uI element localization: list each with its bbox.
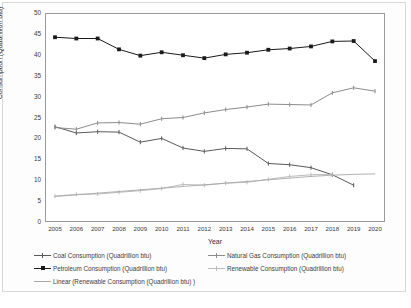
data-point-petroleum-consumption — [330, 40, 334, 44]
data-point-petroleum-consumption — [245, 51, 249, 55]
legend-item-renewable-consumption[interactable]: Renewable Consumption (Quadrillion btu) — [208, 263, 344, 274]
data-point-petroleum-consumption — [202, 56, 206, 60]
x-axis-tick-2018: 2018 — [326, 225, 340, 232]
x-axis-tick-2009: 2009 — [134, 225, 148, 232]
legend-swatch-coal-consumption-icon — [34, 251, 51, 260]
series-line-linear — [55, 174, 375, 197]
x-axis-tick-2017: 2017 — [304, 225, 318, 232]
data-point-petroleum-consumption — [74, 37, 78, 41]
legend-swatch-petroleum-consumption-icon — [34, 264, 51, 273]
legend-item-linear[interactable]: Linear (Renewable Consumption (Quadrilli… — [34, 276, 195, 287]
y-axis-title: Consumption (Quadrillion btu) — [0, 0, 9, 123]
y-axis-tick-10: 10 — [34, 177, 41, 183]
data-point-petroleum-consumption — [224, 52, 228, 56]
legend-label-linear: Linear (Renewable Consumption (Quadrilli… — [53, 277, 195, 286]
x-axis-tick-2012: 2012 — [198, 225, 212, 232]
y-axis-tick-30: 30 — [34, 93, 41, 99]
x-axis-tick-labels: 2005200620072008200920102011201220132014… — [45, 225, 385, 235]
legend-swatch-renewable-consumption-icon — [208, 264, 225, 273]
chart-root: Consumption (Quadrillion btu) 5045403530… — [0, 0, 411, 308]
y-axis-tick-25: 25 — [34, 114, 41, 120]
x-axis-tick-2006: 2006 — [70, 225, 84, 232]
data-point-petroleum-consumption — [288, 47, 292, 51]
y-axis-tick-45: 45 — [34, 31, 41, 37]
legend-item-petroleum-consumption[interactable]: Petroleum Consumption (Quadrillion btu) — [34, 263, 167, 274]
x-axis-tick-2010: 2010 — [155, 225, 169, 232]
series-line-petroleum-consumption — [55, 37, 375, 61]
data-point-petroleum-consumption — [53, 35, 57, 39]
legend-item-natural-gas-consumption[interactable]: Natural Gas Consumption (Quadrillion btu… — [208, 250, 346, 261]
x-axis-tick-2008: 2008 — [112, 225, 126, 232]
x-axis-tick-2013: 2013 — [219, 225, 233, 232]
legend-label-renewable-consumption: Renewable Consumption (Quadrillion btu) — [227, 264, 344, 273]
x-axis-tick-2011: 2011 — [176, 225, 189, 232]
chart-legend: Coal Consumption (Quadrillion btu)Natura… — [30, 250, 380, 290]
x-axis-tick-2007: 2007 — [91, 225, 105, 232]
x-axis-tick-2019: 2019 — [347, 225, 361, 232]
data-point-petroleum-consumption — [352, 39, 356, 43]
y-axis-tick-15: 15 — [34, 156, 41, 162]
y-axis-tick-labels: 50454035302520151050 — [18, 13, 43, 222]
data-point-petroleum-consumption — [138, 54, 142, 58]
legend-swatch-natural-gas-consumption-icon — [208, 251, 225, 260]
y-axis-tick-0: 0 — [37, 219, 41, 225]
x-axis-tick-2015: 2015 — [262, 225, 276, 232]
plot-area — [45, 13, 385, 222]
legend-label-coal-consumption: Coal Consumption (Quadrillion btu) — [53, 251, 151, 260]
y-axis-tick-20: 20 — [34, 135, 41, 141]
x-axis-tick-2014: 2014 — [240, 225, 254, 232]
x-axis-tick-2005: 2005 — [48, 225, 62, 232]
y-axis-tick-40: 40 — [34, 52, 41, 58]
data-point-petroleum-consumption — [117, 47, 121, 51]
legend-swatch-linear-icon — [34, 277, 51, 286]
data-point-petroleum-consumption — [373, 59, 377, 63]
legend-item-coal-consumption[interactable]: Coal Consumption (Quadrillion btu) — [34, 250, 151, 261]
data-point-petroleum-consumption — [309, 45, 313, 49]
data-point-petroleum-consumption — [160, 50, 164, 54]
y-axis-tick-5: 5 — [37, 198, 41, 204]
series-line-natural-gas-consumption — [55, 88, 375, 129]
data-point-petroleum-consumption — [96, 37, 100, 41]
x-axis-tick-2020: 2020 — [368, 225, 382, 232]
y-axis-tick-35: 35 — [34, 72, 41, 78]
x-axis-tick-2016: 2016 — [283, 225, 297, 232]
data-point-petroleum-consumption — [266, 48, 270, 52]
legend-label-natural-gas-consumption: Natural Gas Consumption (Quadrillion btu… — [227, 251, 346, 260]
x-axis-title: Year — [45, 238, 385, 245]
legend-label-petroleum-consumption: Petroleum Consumption (Quadrillion btu) — [53, 264, 167, 273]
series-canvas — [45, 13, 385, 222]
data-point-petroleum-consumption — [181, 53, 185, 57]
y-axis-tick-50: 50 — [34, 10, 41, 16]
